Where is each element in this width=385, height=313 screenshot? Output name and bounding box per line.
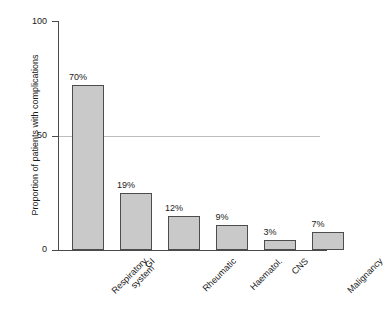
bar-gi	[120, 193, 152, 250]
bar-value-gi: 19%	[110, 181, 142, 190]
x-label-malignancy-line1: Malignancy	[345, 256, 384, 295]
bar-rheumatic	[168, 216, 200, 250]
x-label-cns-line1: CNS	[290, 256, 311, 277]
x-label-haematol: Haematol.	[248, 256, 284, 292]
x-label-malignancy: Malignancy	[345, 256, 384, 295]
bar-haematol	[216, 225, 248, 250]
y-tick-100-label: 100	[17, 17, 47, 26]
bar-value-respiratory-system: 70%	[62, 73, 94, 82]
bar-malignancy	[312, 232, 344, 250]
plot-area	[58, 21, 327, 250]
x-label-rheumatic-line1: Rheumatic	[201, 256, 238, 293]
x-axis-line	[58, 250, 327, 251]
bar-value-cns: 3%	[254, 228, 286, 237]
bar-value-haematol: 9%	[206, 213, 238, 222]
y-tick-50-label: 50	[17, 131, 47, 140]
bar-respiratory-system	[72, 85, 104, 250]
bar-value-rheumatic: 12%	[158, 204, 190, 213]
y-tick-0-label: 0	[17, 245, 47, 254]
bar-value-malignancy: 7%	[302, 220, 334, 229]
x-label-cns: CNS	[290, 256, 311, 277]
bar-cns	[264, 240, 296, 250]
x-label-rheumatic: Rheumatic	[201, 256, 238, 293]
x-label-haematol-line1: Haematol.	[248, 256, 284, 292]
